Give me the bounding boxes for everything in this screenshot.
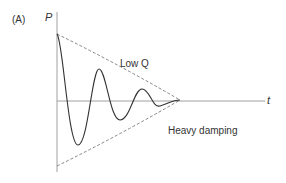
x-axis-label: t	[267, 94, 270, 106]
lower-envelope	[57, 100, 180, 166]
damped-wave-curve	[57, 34, 180, 145]
low-q-label: Low Q	[120, 58, 149, 69]
y-axis-label: P	[45, 11, 52, 23]
damped-oscillation-diagram	[0, 0, 286, 183]
heavy-damping-label: Heavy damping	[168, 125, 237, 136]
panel-label: (A)	[12, 14, 25, 25]
upper-envelope	[57, 34, 180, 100]
